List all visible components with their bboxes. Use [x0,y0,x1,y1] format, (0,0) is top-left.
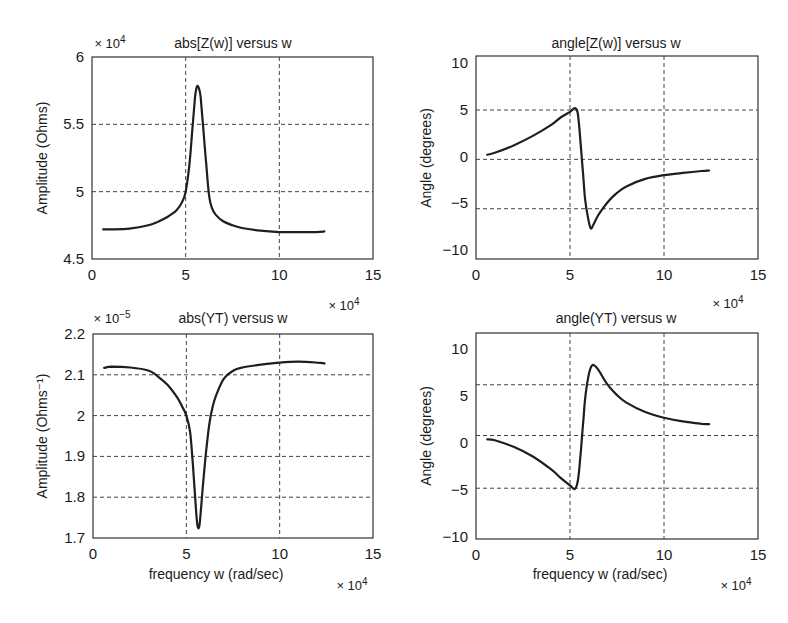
tick-labels: 0510151050−5−10 [443,54,767,283]
y-axis-label: Amplitude (Ohms) [34,102,50,215]
x-tick-label: 5 [566,266,574,283]
axes-frame [93,334,373,538]
gridlines [476,56,758,259]
y-axis-label: Angle (degrees) [418,108,434,208]
data-line [487,108,709,228]
y-tick-label: 0 [460,148,468,165]
subplot-angle-yt: angle(YT) versus w Angle (degrees) frequ… [418,310,766,593]
x-tick-label: 15 [750,546,767,563]
data-line [103,86,324,232]
svg-text:× 104: × 104 [328,296,360,313]
x-tick-label: 10 [271,545,288,562]
y-tick-label: 5 [460,101,468,118]
x-tick-label: 15 [750,266,767,283]
data-line [104,362,324,529]
y-axis-label: Amplitude (Ohms⁻¹) [34,374,50,499]
subplot-abs-yt: abs(YT) versus w × 10−5 Amplitude (Ohms⁻… [34,309,381,593]
x-tick-label: 15 [365,266,382,283]
subplot-title: abs(YT) versus w [179,310,289,326]
x-tick-label: 0 [472,266,480,283]
y-tick-label: 5 [76,183,84,200]
y-tick-label: 1.8 [64,488,85,505]
svg-text:× 104: × 104 [712,294,744,311]
y-tick-label: 5 [460,387,468,404]
y-multiplier: × 104 [94,34,126,51]
data-line [487,365,709,489]
y-tick-label: 6 [76,48,84,65]
y-tick-label: 2.2 [64,325,85,342]
y-tick-label: 10 [451,340,468,357]
x-tick-label: 10 [656,266,673,283]
y-tick-label: 2 [77,407,85,424]
gridlines [476,333,758,539]
subplot-title: angle(YT) versus w [556,310,677,326]
figure: abs[Z(w)] versus w × 104 Amplitude (Ohms… [0,0,788,623]
svg-text:× 10−5: × 10−5 [93,309,131,326]
y-tick-label: 2.1 [64,366,85,383]
x-axis-label: frequency w (rad/sec) [533,566,668,582]
subplot-abs-z: abs[Z(w)] versus w × 104 Amplitude (Ohms… [34,34,381,313]
y-tick-label: 5.5 [63,115,84,132]
y-tick-label: −10 [443,241,468,258]
svg-text:× 104: × 104 [336,576,368,593]
x-axis-label: frequency w (rad/sec) [149,566,284,582]
y-tick-label: 0 [460,434,468,451]
y-axis-label: Angle (degrees) [418,386,434,486]
x-tick-label: 5 [566,546,574,563]
y-multiplier: × 10−5 [93,309,131,326]
y-tick-label: −5 [451,194,468,211]
tick-labels: 0510151.71.81.922.12.2 [64,325,381,562]
x-tick-label: 0 [89,545,97,562]
x-tick-label: 0 [88,266,96,283]
x-tick-label: 15 [365,545,382,562]
y-tick-label: −10 [443,528,468,545]
axes-frame [476,56,758,259]
y-tick-label: 1.9 [64,447,85,464]
x-multiplier: × 104 [720,576,752,593]
subplot-title: abs[Z(w)] versus w [174,35,292,51]
y-tick-label: −5 [451,481,468,498]
svg-text:× 104: × 104 [94,34,126,51]
y-tick-label: 4.5 [63,250,84,267]
svg-text:× 104: × 104 [720,576,752,593]
x-multiplier: × 104 [712,294,744,311]
tick-labels: 0510154.555.56 [63,48,381,283]
x-tick-label: 5 [181,266,189,283]
x-multiplier: × 104 [328,296,360,313]
x-tick-label: 10 [271,266,288,283]
x-multiplier: × 104 [336,576,368,593]
gridlines [93,334,373,538]
y-tick-label: 10 [451,54,468,71]
subplot-title: angle[Z(w)] versus w [551,35,681,51]
x-tick-label: 10 [656,546,673,563]
tick-labels: 0510151050−5−10 [443,340,767,563]
x-tick-label: 5 [182,545,190,562]
x-tick-label: 0 [472,546,480,563]
y-tick-label: 1.7 [64,529,85,546]
subplot-angle-z: angle[Z(w)] versus w Angle (degrees) × 1… [418,35,766,311]
